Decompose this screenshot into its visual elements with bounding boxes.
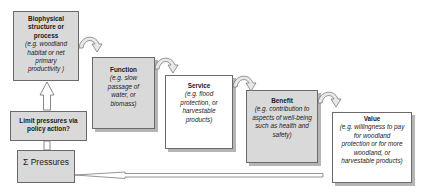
curved-arrow-icon [155,58,178,73]
curved-arrow-icon [79,37,102,52]
up-arrow-icon [40,82,54,110]
connector-pressures-limit [44,141,50,150]
curved-arrow-icon [318,92,341,107]
feedback-arrow-icon [75,172,323,179]
curved-arrow-icon [233,76,256,91]
connectors-layer [0,0,425,194]
